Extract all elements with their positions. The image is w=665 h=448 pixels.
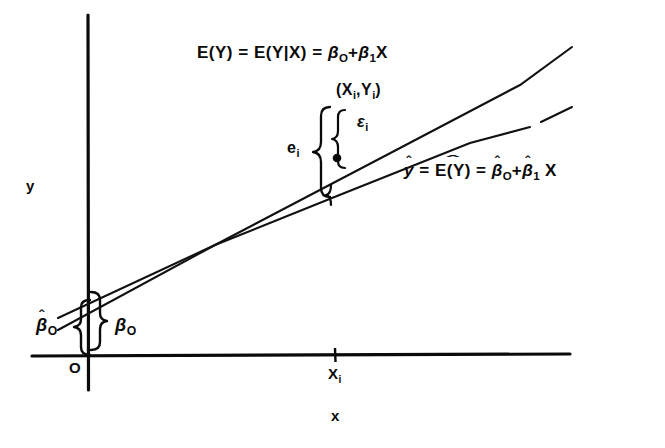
e-subscript: i [296,147,299,159]
true-eq-equals-2: = [312,43,322,62]
fitted-line-equation: ˆy = ˆE(Y) = ˆβO+ˆβ1 X [404,162,557,183]
y-axis [88,15,89,390]
x-tick-label-xi: Xi [328,366,341,385]
beta0-true-label: βO [115,316,136,338]
origin-label: O [69,360,81,375]
fitted-eq-x-variable: X [545,161,557,180]
true-eq-x-variable: X [376,43,388,62]
fitted-eq-yhat-accent: ˆ [406,155,411,169]
point-x-symbol: X [342,81,353,98]
fitted-eq-plus: + [512,161,522,180]
fitted-eq-beta1-subscript: 1 [533,170,539,182]
x-tick-subscript: i [339,374,342,385]
e-symbol: e [287,139,296,156]
fitted-eq-beta0hat: ˆβ [492,162,503,179]
beta0-hat-label: ˆβO [36,316,57,338]
beta0-true-symbol: β [115,315,127,335]
epsilon-subscript: i [365,121,368,133]
e-residual-label: ei [287,140,299,159]
true-eq-lhs: E(Y) [197,43,233,62]
true-eq-equals-1: = [238,43,248,62]
fitted-eq-ehat-accent: ˆ [446,154,459,168]
x-axis [32,354,570,356]
beta0-hat-accent: ˆ [39,308,45,323]
true-eq-conditional: E(Y|X) [254,43,307,62]
beta0-hat-glyph: ˆβ [36,316,48,334]
e-residual-brace [313,107,330,197]
beta0-hat-subscript: O [48,324,58,338]
point-y-symbol: Y [361,81,372,98]
y-axis-label: y [26,178,35,193]
true-eq-beta0-subscript: O [339,52,348,64]
fitted-eq-beta1hat: ˆβ [522,162,533,179]
point-close-paren: ) [375,81,381,98]
beta0-true-subscript: O [127,324,137,338]
fitted-eq-beta1-accent: ˆ [525,155,530,169]
fitted-eq-ehat: ˆE(Y) [435,162,471,179]
fitted-eq-beta0-subscript: O [503,170,512,182]
e-residual-brace-tail [326,185,331,205]
epsilon-symbol: ε [357,113,365,130]
fitted-eq-equals-1: = [419,161,429,180]
data-point-label: (Xi,Yi) [336,82,381,101]
true-line-equation: E(Y) = E(Y|X) = βO+β1X [197,44,388,65]
fitted-eq-beta0-accent: ˆ [495,155,500,169]
x-tick-symbol: X [328,365,339,382]
fitted-eq-yhat: ˆy [404,162,414,179]
true-eq-beta1-symbol: β [358,43,369,62]
x-axis-label: x [331,408,340,423]
fitted-eq-equals-2: = [476,161,486,180]
regression-diagram: E(Y) = E(Y|X) = βO+β1X (Xi,Yi) εi ei ˆy … [0,0,665,448]
true-eq-plus: + [348,43,358,62]
fitted-regression-line-extension [541,107,572,122]
epsilon-residual-label: εi [357,114,368,133]
true-eq-beta0-symbol: β [328,43,339,62]
x-axis-tick-xi [335,348,336,362]
